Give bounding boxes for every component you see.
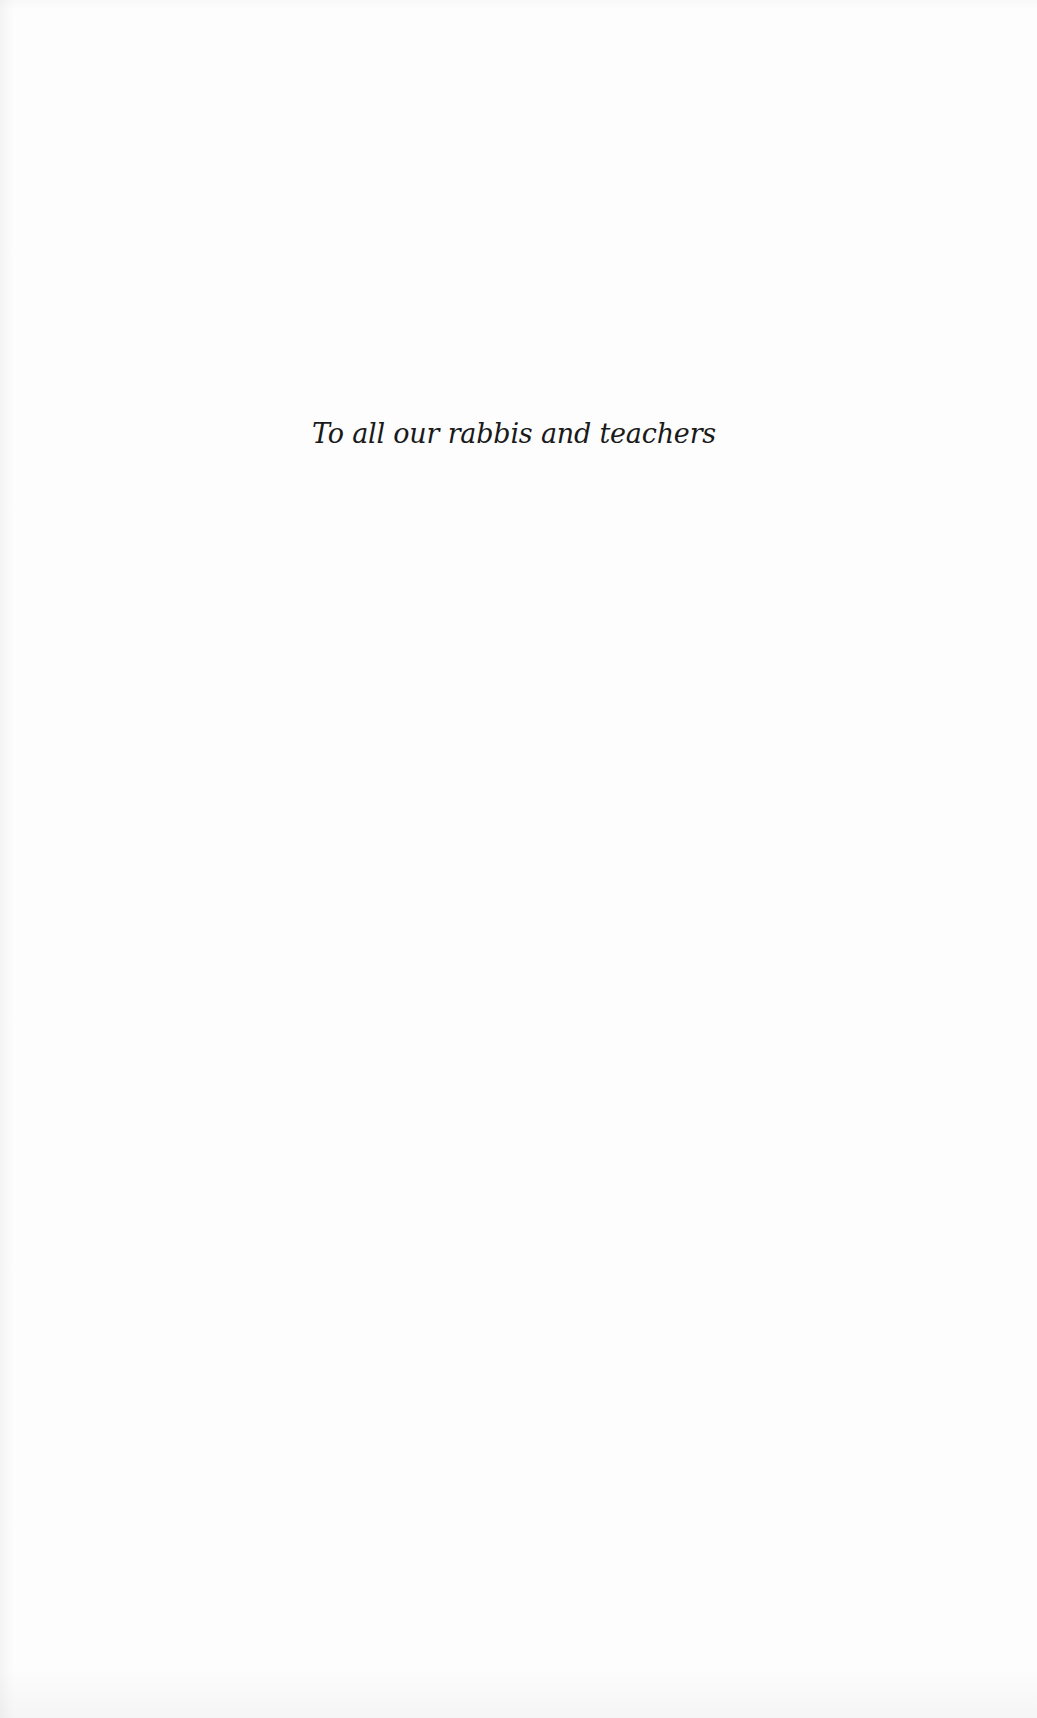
- dedication-text: To all our rabbis and teachers: [312, 416, 716, 452]
- dedication-page: To all our rabbis and teachers: [0, 0, 1037, 1718]
